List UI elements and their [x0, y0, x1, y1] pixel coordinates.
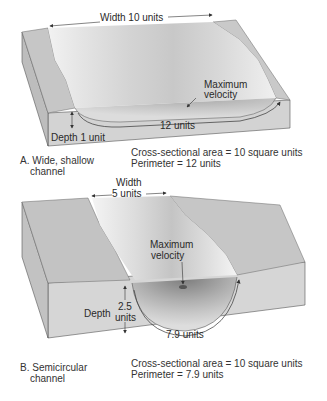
panel-a-caption-line2: channel	[20, 166, 94, 177]
panel-a-perimeter-text: Perimeter = 12 units	[131, 158, 302, 169]
panel-b-caption-line1: B. Semicircular	[20, 362, 87, 373]
panel-b-perimeter-arrow-label: 7.9 units	[166, 330, 204, 340]
panel-b-area-text: Cross-sectional area = 10 square units	[131, 358, 302, 369]
panel-b-max-velocity-label-1: Maximum	[150, 240, 193, 250]
panel-b-block	[22, 193, 305, 338]
panel-a-perimeter-arrow-label: 12 units	[160, 121, 195, 131]
panel-b-perimeter-text: Perimeter = 7.9 units	[131, 369, 302, 380]
panel-a-stats: Cross-sectional area = 10 square units P…	[131, 147, 302, 169]
panel-b-width-label-2: 5 units	[112, 189, 141, 199]
panel-a-depth-label: Depth 1 unit	[51, 133, 105, 143]
panel-b-caption-line2: channel	[20, 373, 87, 384]
panel-b-caption: B. Semicircular channel	[20, 362, 87, 384]
panel-b-max-velocity-label-2: velocity	[151, 251, 184, 261]
panel-b-depth-value-1: 2.5	[118, 302, 132, 312]
panel-a-width-label: Width 10 units	[100, 13, 163, 23]
channel-diagram	[0, 0, 327, 401]
panel-b-stats: Cross-sectional area = 10 square units P…	[131, 358, 302, 380]
panel-b-depth-label: Depth	[84, 309, 111, 319]
panel-b-width-label-1: Width	[116, 178, 142, 188]
panel-a-caption-line1: A. Wide, shallow	[20, 155, 94, 166]
panel-a-caption: A. Wide, shallow channel	[20, 155, 94, 177]
panel-a-area-text: Cross-sectional area = 10 square units	[131, 147, 302, 158]
panel-a-max-velocity-label-2: velocity	[204, 90, 237, 100]
panel-b-depth-value-2: units	[115, 313, 136, 323]
panel-a-block	[22, 15, 290, 146]
